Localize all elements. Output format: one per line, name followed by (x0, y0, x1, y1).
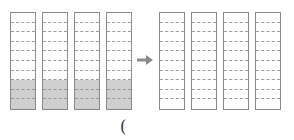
left-bar-3 (74, 12, 100, 110)
bar-segment (43, 71, 67, 81)
bar-segment (11, 71, 35, 81)
bar-segment (256, 32, 280, 42)
bar-segment (43, 90, 67, 100)
bar-segment (11, 90, 35, 100)
bar-segment (75, 71, 99, 81)
bar-segment (160, 51, 184, 61)
bar-segment (256, 99, 280, 109)
bar-segment (11, 32, 35, 42)
bar-segment (11, 61, 35, 71)
right-bar-2 (191, 12, 217, 110)
bar-segment (256, 80, 280, 90)
bar-segment (224, 90, 248, 100)
bar-segment (43, 13, 67, 23)
bar-segment (75, 32, 99, 42)
bar-segment (160, 42, 184, 52)
bar-segment (11, 80, 35, 90)
bar-segment (160, 80, 184, 90)
bar-segment (75, 80, 99, 90)
bar-segment (160, 90, 184, 100)
bar-segment (192, 51, 216, 61)
left-bar-4 (106, 12, 132, 110)
bar-segment (11, 23, 35, 33)
bar-segment (11, 13, 35, 23)
arrow-right-icon (137, 55, 153, 65)
bar-segment (160, 23, 184, 33)
bar-segment (224, 23, 248, 33)
bar-segment (107, 99, 131, 109)
bar-segment (256, 13, 280, 23)
bar-segment (160, 99, 184, 109)
bar-segment (224, 42, 248, 52)
bar-segment (192, 13, 216, 23)
bar-segment (107, 71, 131, 81)
bar-segment (224, 32, 248, 42)
bar-segment (107, 23, 131, 33)
bar-segment (256, 42, 280, 52)
bar-segment (192, 90, 216, 100)
bar-segment (75, 90, 99, 100)
bar-segment (192, 32, 216, 42)
bar-segment (107, 32, 131, 42)
bar-segment (256, 71, 280, 81)
bar-segment (192, 23, 216, 33)
bar-segment (75, 13, 99, 23)
bar-segment (43, 32, 67, 42)
bar-segment (75, 23, 99, 33)
bar-segment (43, 51, 67, 61)
caption-paren: ( (120, 117, 126, 136)
right-bar-4 (255, 12, 281, 110)
bar-segment (107, 90, 131, 100)
bar-segment (43, 61, 67, 71)
bar-segment (107, 13, 131, 23)
bar-segment (11, 42, 35, 52)
bar-segment (43, 80, 67, 90)
bar-segment (224, 61, 248, 71)
bar-segment (160, 13, 184, 23)
bar-segment (11, 51, 35, 61)
bar-segment (224, 13, 248, 23)
bar-segment (107, 51, 131, 61)
left-bar-2 (42, 12, 68, 110)
right-bar-1 (159, 12, 185, 110)
bar-segment (75, 42, 99, 52)
bar-segment (107, 42, 131, 52)
bar-segment (224, 80, 248, 90)
bar-segment (43, 23, 67, 33)
bar-segment (160, 71, 184, 81)
bar-segment (43, 42, 67, 52)
bar-segment (224, 99, 248, 109)
bar-segment (160, 61, 184, 71)
bar-segment (75, 51, 99, 61)
bar-segment (75, 99, 99, 109)
bar-segment (107, 61, 131, 71)
bar-segment (224, 51, 248, 61)
bar-segment (11, 99, 35, 109)
bar-segment (160, 32, 184, 42)
bar-segment (256, 23, 280, 33)
bar-segment (43, 99, 67, 109)
bar-segment (192, 61, 216, 71)
bar-segment (192, 80, 216, 90)
bar-segment (256, 90, 280, 100)
bar-segment (107, 80, 131, 90)
bar-segment (192, 99, 216, 109)
bar-segment (75, 61, 99, 71)
bar-segment (192, 42, 216, 52)
bar-segment (256, 51, 280, 61)
right-bar-3 (223, 12, 249, 110)
bar-segment (224, 71, 248, 81)
left-bar-1 (10, 12, 36, 110)
bar-segment (192, 71, 216, 81)
bar-segment (256, 61, 280, 71)
